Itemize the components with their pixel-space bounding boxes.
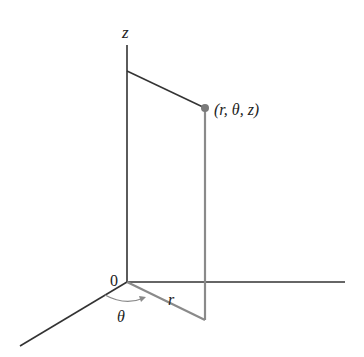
theta-arrowhead bbox=[139, 296, 146, 302]
z-axis-label: z bbox=[121, 23, 129, 42]
height-line bbox=[127, 71, 205, 108]
cylindrical-coordinates-diagram: z 0 (r, θ, z) r θ bbox=[0, 0, 364, 357]
theta-arc bbox=[105, 295, 144, 301]
point-label: (r, θ, z) bbox=[214, 101, 259, 119]
origin-label: 0 bbox=[110, 272, 118, 289]
point-marker bbox=[201, 104, 209, 112]
x-axis bbox=[20, 282, 127, 346]
radius-label: r bbox=[168, 291, 175, 308]
angle-label: θ bbox=[117, 308, 125, 325]
radius-line bbox=[127, 282, 205, 320]
